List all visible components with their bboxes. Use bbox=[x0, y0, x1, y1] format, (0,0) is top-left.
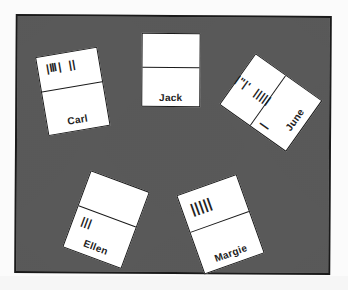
card-name: Jack bbox=[142, 92, 199, 103]
name-card-margie: ||||| Margie bbox=[176, 174, 265, 275]
page-background bbox=[0, 276, 348, 290]
card-divider bbox=[142, 67, 199, 68]
tally-marks-bottom: | bbox=[258, 121, 269, 130]
name-card-june: |ʺ|ʹ ||||| | June bbox=[219, 53, 322, 152]
card-name: June bbox=[273, 92, 317, 148]
tally-marks-top: ||||| bbox=[188, 195, 214, 216]
tally-marks-top: |Ⅲ| || bbox=[45, 59, 76, 75]
name-card-ellen: ||| Ellen bbox=[62, 170, 150, 269]
tally-marks-bottom: ||| bbox=[80, 216, 94, 230]
name-card-jack: Jack bbox=[141, 33, 200, 107]
card-name: Margie bbox=[200, 237, 262, 268]
card-name: Carl bbox=[47, 109, 109, 130]
name-card-carl: |Ⅲ| || Carl bbox=[35, 47, 111, 136]
table-surface: |Ⅲ| || Carl Jack |ʺ|ʹ ||||| | June ||| E… bbox=[14, 14, 332, 275]
card-divider bbox=[42, 81, 102, 92]
card-name: Ellen bbox=[65, 231, 126, 263]
